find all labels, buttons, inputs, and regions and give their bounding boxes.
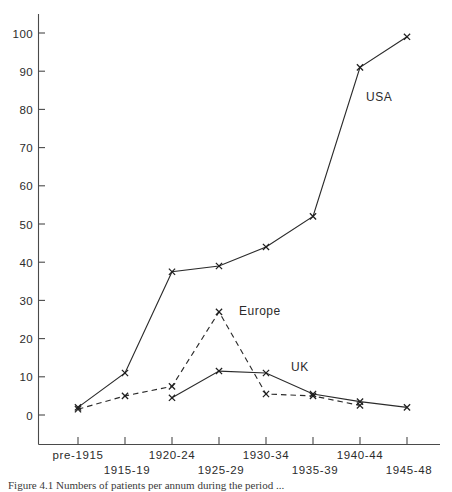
series-label-uk: UK — [291, 360, 309, 374]
data-point-marker — [310, 213, 316, 219]
x-axis: pre-1915 1920-24 1930-34 1940-44 1915-19… — [39, 437, 441, 476]
x-tick-label-1945-48: 1945-48 — [386, 464, 432, 476]
data-point-marker — [263, 391, 269, 397]
data-point-marker — [263, 244, 269, 250]
x-tick-label-1935-39: 1935-39 — [292, 464, 338, 476]
x-tick-label-1940-44: 1940-44 — [337, 449, 383, 461]
data-point-marker — [404, 34, 410, 40]
x-tick-label-pre-1915: pre-1915 — [53, 449, 104, 461]
series-line-uk — [172, 371, 407, 407]
data-point-marker — [169, 383, 175, 389]
series-label-usa: USA — [366, 90, 392, 104]
y-tick-label-20: 20 — [19, 333, 33, 345]
y-tick-label-100: 100 — [13, 28, 33, 40]
data-point-marker — [122, 370, 128, 376]
data-point-marker — [357, 64, 363, 70]
x-tick-label-1925-29: 1925-29 — [198, 464, 244, 476]
series-annotations: USA Europe UK — [239, 90, 392, 374]
y-tick-label-70: 70 — [19, 142, 33, 154]
y-axis: 100 90 80 70 60 50 40 30 20 10 0 — [13, 14, 45, 445]
y-tick-label-30: 30 — [19, 295, 33, 307]
series-label-europe: Europe — [239, 304, 281, 318]
y-tick-label-10: 10 — [19, 371, 33, 383]
x-tick-label-1930-34: 1930-34 — [243, 449, 289, 461]
y-tick-label-50: 50 — [19, 219, 33, 231]
y-tick-label-90: 90 — [19, 66, 33, 78]
data-point-marker — [169, 395, 175, 401]
x-tick-label-1920-24: 1920-24 — [149, 449, 195, 461]
y-tick-label-60: 60 — [19, 180, 33, 192]
data-series-layer — [75, 34, 410, 413]
y-tick-label-0: 0 — [26, 410, 33, 422]
y-tick-label-40: 40 — [19, 257, 33, 269]
y-tick-label-80: 80 — [19, 104, 33, 116]
x-tick-label-1915-19: 1915-19 — [104, 464, 150, 476]
figure-caption: Figure 4.1 Numbers of patients per annum… — [8, 479, 448, 492]
data-point-marker — [216, 309, 222, 315]
